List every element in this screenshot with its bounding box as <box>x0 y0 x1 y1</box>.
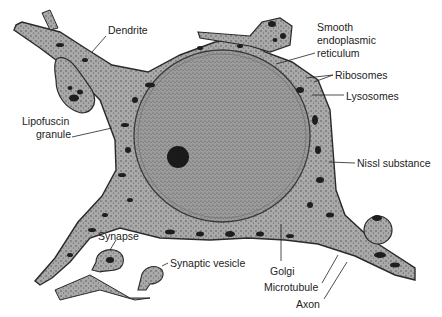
label-synaptic-vesicle: Synaptic vesicle <box>170 257 245 269</box>
label-smooth-er-line2: endoplasmic <box>317 34 376 46</box>
nucleolus <box>167 146 189 168</box>
label-synapse: Synapse <box>98 230 139 242</box>
right-bulb <box>364 215 392 244</box>
neuron-diagram: Dendrite Smooth endoplasmic reticulum Ri… <box>0 0 442 317</box>
label-microtubule: Microtubule <box>264 281 318 293</box>
label-lipofuscin-line1: Lipofuscin <box>22 115 69 127</box>
label-nissl-substance: Nissl substance <box>357 157 431 169</box>
nucleus <box>134 50 310 222</box>
label-dendrite: Dendrite <box>108 24 148 36</box>
label-lysosomes: Lysosomes <box>346 90 399 102</box>
label-golgi: Golgi <box>270 265 295 277</box>
label-axon: Axon <box>296 298 320 310</box>
label-lipofuscin-line2: granule <box>36 128 71 140</box>
label-smooth-er-line3: reticulum <box>317 47 360 59</box>
label-ribosomes: Ribosomes <box>335 69 388 81</box>
label-smooth-er-line1: Smooth <box>317 21 353 33</box>
